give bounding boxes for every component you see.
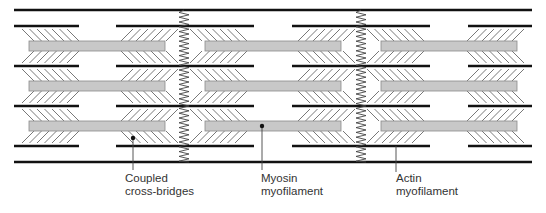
cross-bridge [52, 109, 64, 121]
cross-bridge [220, 29, 232, 41]
cross-bridge [45, 131, 57, 143]
cross-bridge [136, 69, 148, 81]
cross-bridge [235, 91, 247, 103]
cross-bridge [482, 51, 494, 63]
cross-bridge [505, 69, 517, 81]
cross-bridge [45, 109, 57, 121]
cross-bridge [313, 109, 325, 121]
cross-bridge [490, 51, 502, 63]
cross-bridge [412, 131, 424, 143]
cross-bridge [30, 69, 42, 81]
cross-bridge [136, 109, 148, 121]
cross-bridge [343, 29, 355, 41]
cross-bridge [321, 131, 333, 143]
cross-bridge [313, 29, 325, 41]
cross-bridge [37, 29, 49, 41]
cross-bridge [30, 131, 42, 143]
cross-bridge [198, 91, 210, 103]
cross-bridge [306, 29, 318, 41]
cross-bridge [22, 69, 34, 81]
label-line: myofilament [396, 185, 458, 198]
myosin-filaments [29, 41, 517, 131]
cross-bridge [482, 91, 494, 103]
cross-bridge [190, 51, 202, 63]
cross-bridge [136, 51, 148, 63]
myosin-filament [29, 81, 165, 91]
cross-bridge [306, 131, 318, 143]
cross-bridge [367, 69, 379, 81]
cross-bridge [159, 91, 171, 103]
cross-bridge [336, 29, 348, 41]
cross-bridge [390, 29, 402, 41]
cross-bridge [482, 69, 494, 81]
cross-bridge [205, 91, 217, 103]
cross-bridge [121, 29, 133, 41]
cross-bridge [67, 69, 79, 81]
cross-bridge [397, 29, 409, 41]
label-coupled-cross-bridges: Coupled cross-bridges [125, 172, 194, 198]
z-disc [179, 10, 189, 162]
cross-bridge [367, 109, 379, 121]
cross-bridge [328, 69, 340, 81]
cross-bridge [397, 91, 409, 103]
cross-bridge [306, 69, 318, 81]
cross-bridge [405, 51, 417, 63]
cross-bridge [382, 109, 394, 121]
cross-bridge [367, 51, 379, 63]
cross-bridge [490, 69, 502, 81]
cross-bridge [467, 69, 479, 81]
cross-bridge [22, 51, 34, 63]
myosin-filament [29, 41, 165, 51]
cross-bridge [505, 131, 517, 143]
cross-bridge [205, 51, 217, 63]
cross-bridge [397, 69, 409, 81]
cross-bridge [45, 29, 57, 41]
label-line: Myosin [261, 172, 323, 185]
cross-bridge [375, 131, 387, 143]
cross-bridge [298, 29, 310, 41]
cross-bridge [475, 91, 487, 103]
cross-bridge [166, 131, 178, 143]
cross-bridge [405, 109, 417, 121]
cross-bridge [375, 29, 387, 41]
cross-bridge [321, 29, 333, 41]
cross-bridge [136, 91, 148, 103]
cross-bridge [505, 29, 517, 41]
cross-bridge [190, 131, 202, 143]
cross-bridge [159, 29, 171, 41]
cross-bridge [220, 131, 232, 143]
cross-bridge [475, 131, 487, 143]
cross-bridge [375, 51, 387, 63]
cross-bridge [382, 69, 394, 81]
cross-bridge [166, 51, 178, 63]
cross-bridge [298, 131, 310, 143]
cross-bridge [213, 29, 225, 41]
cross-bridge [60, 69, 72, 81]
cross-bridge [198, 69, 210, 81]
label-myosin-myofilament: Myosin myofilament [261, 172, 323, 198]
cross-bridge [213, 109, 225, 121]
cross-bridge [228, 69, 240, 81]
cross-bridge [166, 109, 178, 121]
cross-bridge [482, 109, 494, 121]
cross-bridge [213, 51, 225, 63]
cross-bridge [213, 91, 225, 103]
cross-bridge [313, 69, 325, 81]
cross-bridge [228, 91, 240, 103]
cross-bridge [205, 69, 217, 81]
cross-bridge [235, 69, 247, 81]
cross-bridge [166, 69, 178, 81]
cross-bridge [412, 109, 424, 121]
cross-bridge [328, 131, 340, 143]
cross-bridge [129, 69, 141, 81]
cross-bridge [37, 51, 49, 63]
cross-bridge [390, 109, 402, 121]
z-disc [356, 10, 366, 162]
cross-bridge [22, 91, 34, 103]
cross-bridge [129, 51, 141, 63]
cross-bridge [151, 69, 163, 81]
myosin-filament [205, 81, 341, 91]
cross-bridge [313, 131, 325, 143]
cross-bridge [190, 109, 202, 121]
cross-bridge [467, 51, 479, 63]
